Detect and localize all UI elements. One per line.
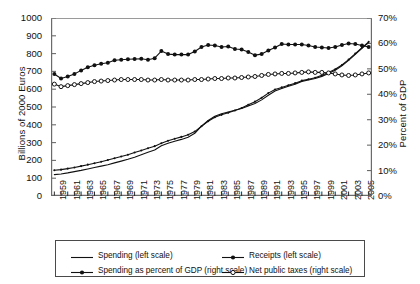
y-axis-left-tick-label: 1000 [8, 12, 42, 23]
y-axis-right-tick-label: 20% [378, 139, 412, 150]
y-axis-left-tick-label: 600 [8, 83, 42, 94]
legend-label-4: Net public taxes (right scale) [249, 266, 352, 275]
legend-symbol-2 [221, 253, 245, 262]
legend-symbol-4 [221, 268, 245, 277]
y-axis-left-tick-label: 900 [8, 30, 42, 41]
y-axis-left-tick-label: 800 [8, 48, 42, 59]
y-axis-left-tick-label: 500 [8, 101, 42, 112]
plot-area [51, 18, 372, 196]
legend-label-1: Spending (left scale) [98, 251, 173, 260]
legend-label-2: Receipts (left scale) [249, 251, 321, 260]
chart-figure: Billions of 2000 Euros Percent of GDP 01… [0, 0, 420, 284]
y-axis-left-tick-label: 100 [8, 172, 42, 183]
y-axis-right-tick-label: 50% [378, 63, 412, 74]
y-axis-left-tick-label: 400 [8, 119, 42, 130]
y-axis-left-tick-label: 0 [8, 190, 42, 201]
y-axis-right-tick-label: 40% [378, 88, 412, 99]
y-axis-right-tick-label: 60% [378, 37, 412, 48]
y-axis-left-tick-label: 200 [8, 154, 42, 165]
legend-symbol-3 [70, 268, 94, 277]
y-axis-right-tick-label: 10% [378, 165, 412, 176]
series-canvas [51, 18, 372, 196]
y-axis-left-tick-label: 300 [8, 137, 42, 148]
y-axis-right-tick-label: 70% [378, 12, 412, 23]
y-axis-left-tick-label: 700 [8, 65, 42, 76]
legend-symbol-1 [70, 253, 94, 262]
y-axis-right-tick-label: 0% [378, 190, 412, 201]
chart-legend: Spending (left scale)Spending as percent… [55, 240, 365, 277]
y-axis-right-tick-label: 30% [378, 114, 412, 125]
